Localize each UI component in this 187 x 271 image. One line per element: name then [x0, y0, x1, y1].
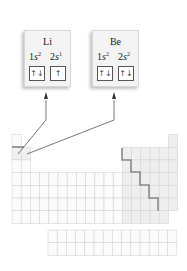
element-cell	[168, 160, 177, 173]
element-cell	[12, 173, 21, 186]
f-block-cell	[112, 243, 121, 256]
element-cell	[168, 198, 177, 211]
element-cell	[159, 160, 168, 173]
element-cell	[67, 173, 76, 186]
element-cell	[159, 173, 168, 186]
element-cell	[132, 185, 141, 198]
element-cell	[113, 173, 122, 186]
element-cell	[21, 211, 30, 224]
element-cell	[95, 173, 104, 186]
element-cell	[58, 173, 67, 186]
element-cell	[86, 173, 95, 186]
element-cell	[104, 198, 113, 211]
element-cell	[141, 173, 150, 186]
f-block-cell	[103, 230, 112, 243]
f-block-cell	[94, 243, 103, 256]
f-block-cell	[122, 230, 131, 243]
f-block-cell	[140, 243, 149, 256]
element-cell	[76, 185, 85, 198]
element-cell	[21, 160, 30, 173]
element-cell	[150, 185, 159, 198]
f-block-cell	[66, 230, 75, 243]
element-cell	[21, 198, 30, 211]
element-cell	[12, 147, 21, 160]
element-cell	[122, 198, 131, 211]
f-block-cell	[48, 243, 57, 256]
li-arrowhead-icon	[44, 92, 48, 99]
element-cell	[159, 211, 168, 224]
element-cell	[150, 160, 159, 173]
element-cell	[58, 198, 67, 211]
f-block-cell	[131, 243, 140, 256]
element-cell	[168, 185, 177, 198]
f-block-cell	[168, 230, 177, 243]
periodic-table-diagram	[0, 0, 187, 271]
f-block-cell	[94, 230, 103, 243]
element-cell	[86, 211, 95, 224]
element-cell	[67, 211, 76, 224]
element-cell	[49, 173, 58, 186]
element-cell	[113, 211, 122, 224]
element-cell	[168, 173, 177, 186]
element-cell	[30, 185, 39, 198]
element-cell	[12, 198, 21, 211]
f-block-cell	[76, 230, 85, 243]
element-cell	[30, 173, 39, 186]
element-cell	[86, 198, 95, 211]
element-cell	[122, 185, 131, 198]
f-block-cell	[85, 230, 94, 243]
element-cell	[159, 198, 168, 211]
element-cell	[30, 211, 39, 224]
element-cell	[113, 198, 122, 211]
element-cell	[58, 211, 67, 224]
element-cell	[159, 185, 168, 198]
element-cell	[40, 198, 49, 211]
element-cell	[141, 211, 150, 224]
element-cell	[150, 147, 159, 160]
element-cell	[132, 211, 141, 224]
element-cell	[122, 173, 131, 186]
f-block-cell	[131, 230, 140, 243]
element-cell	[132, 198, 141, 211]
element-cell	[40, 173, 49, 186]
element-cell	[86, 185, 95, 198]
element-cell	[95, 185, 104, 198]
f-block-cell	[158, 230, 167, 243]
element-cell	[12, 160, 21, 173]
element-cell	[122, 147, 131, 160]
element-cell	[132, 160, 141, 173]
f-block-cell	[76, 243, 85, 256]
element-cell	[58, 185, 67, 198]
f-block-cell	[158, 243, 167, 256]
f-block-cell	[85, 243, 94, 256]
element-cell	[113, 185, 122, 198]
li-pointer-line-diagonal	[18, 120, 46, 154]
element-cell	[122, 211, 131, 224]
f-block-cell	[149, 243, 158, 256]
periodic-table-grid	[12, 135, 178, 256]
f-block-cell	[122, 243, 131, 256]
f-block-cell	[57, 243, 66, 256]
element-cell	[12, 185, 21, 198]
element-cell	[67, 198, 76, 211]
f-block-cell	[57, 230, 66, 243]
element-cell	[159, 147, 168, 160]
element-cell	[30, 198, 39, 211]
element-cell	[49, 198, 58, 211]
element-cell	[12, 211, 21, 224]
element-cell	[49, 185, 58, 198]
element-cell	[76, 198, 85, 211]
element-cell	[76, 173, 85, 186]
element-cell	[40, 211, 49, 224]
element-cell	[141, 160, 150, 173]
f-block-cell	[48, 230, 57, 243]
element-cell	[150, 173, 159, 186]
element-cell	[141, 198, 150, 211]
element-cell	[168, 135, 177, 148]
element-cell	[49, 211, 58, 224]
element-cell	[76, 211, 85, 224]
be-pointer-line-diagonal	[27, 120, 114, 154]
element-cell	[21, 185, 30, 198]
element-cell	[141, 147, 150, 160]
element-cell	[168, 147, 177, 160]
